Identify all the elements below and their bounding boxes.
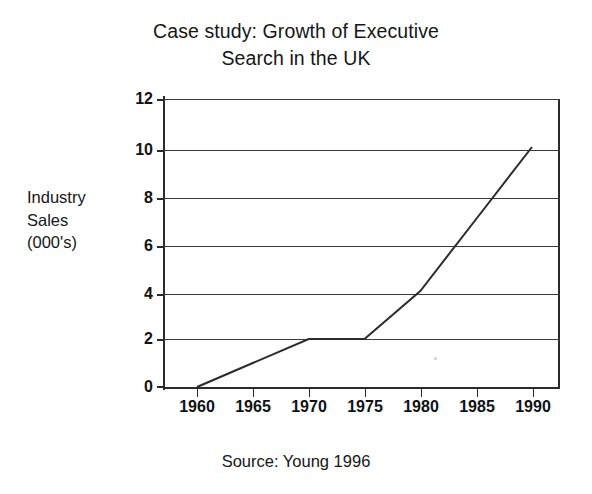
x-tick-label-1970: 1970: [279, 399, 339, 415]
y-tick-label-2: 2: [113, 331, 153, 347]
x-tick-mark-4: [365, 389, 366, 397]
y-tick-label-6: 6: [113, 238, 153, 254]
y-tick-label-10: 10: [113, 142, 153, 158]
x-tick-mark-6: [477, 389, 478, 397]
chart-title-line-2: Search in the UK: [96, 45, 496, 72]
y-tick-label-4: 4: [113, 286, 153, 302]
x-tick-label-1960: 1960: [167, 399, 227, 415]
x-tick-label-1990: 1990: [503, 399, 563, 415]
x-tick-label-1985: 1985: [447, 399, 507, 415]
x-tick-label-1965: 1965: [223, 399, 283, 415]
y-axis-label-line-2: Sales: [27, 209, 127, 232]
y-tick-label-0: 0: [113, 379, 153, 395]
x-tick-mark-1: [197, 389, 198, 397]
x-tick-label-1980: 1980: [391, 399, 451, 415]
chart-title-line-1: Case study: Growth of Executive: [96, 18, 496, 45]
x-tick-mark-5: [421, 389, 422, 397]
scan-artifact-speck: [434, 357, 437, 360]
x-tick-label-1975: 1975: [335, 399, 395, 415]
chart-figure: Case study: Growth of Executive Search i…: [0, 0, 592, 494]
series-polyline: [197, 147, 532, 387]
y-axis-label-line-1: Industry: [27, 186, 127, 209]
y-tick-label-12: 12: [113, 91, 153, 107]
x-tick-mark-7: [533, 389, 534, 397]
chart-title: Case study: Growth of Executive Search i…: [96, 18, 496, 72]
y-tick-label-8: 8: [113, 190, 153, 206]
x-tick-mark-3: [309, 389, 310, 397]
data-series-line: [163, 99, 560, 389]
y-axis-label-line-3: (000's): [27, 231, 127, 254]
y-axis-label: Industry Sales (000's): [27, 186, 127, 254]
x-tick-mark-2: [253, 389, 254, 397]
plot-area: [163, 99, 560, 387]
source-note: Source: Young 1996: [0, 452, 592, 471]
